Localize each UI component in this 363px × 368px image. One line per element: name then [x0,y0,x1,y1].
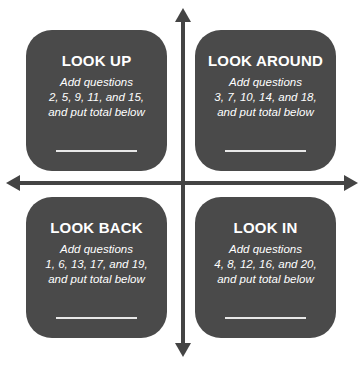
instruction-line: and put total below [195,272,336,287]
quadrant-instructions: Add questions 2, 5, 9, 11, and 15, and p… [26,75,167,120]
instruction-line: Add questions [195,75,336,90]
instruction-line: 3, 7, 10, 14, and 18, [195,90,336,105]
quadrant-title: LOOK AROUND [195,52,336,69]
quadrant-look-up: LOOK UP Add questions 2, 5, 9, 11, and 1… [26,30,167,171]
instruction-line: Add questions [26,242,167,257]
quadrant-title: LOOK UP [26,52,167,69]
quadrant-instructions: Add questions 4, 8, 12, 16, and 20, and … [195,242,336,287]
total-blank-line [56,317,137,319]
quadrant-instructions: Add questions 1, 6, 13, 17, and 19, and … [26,242,167,287]
instruction-line: 1, 6, 13, 17, and 19, [26,257,167,272]
total-blank-line [225,317,306,319]
total-blank-line [56,150,137,152]
quadrant-look-back: LOOK BACK Add questions 1, 6, 13, 17, an… [26,197,167,338]
horizontal-axis [16,181,348,185]
quadrant-title: LOOK BACK [26,219,167,236]
arrow-up-icon [175,8,191,22]
instruction-line: and put total below [26,272,167,287]
instruction-line: 2, 5, 9, 11, and 15, [26,90,167,105]
arrow-right-icon [344,175,358,191]
instruction-line: Add questions [26,75,167,90]
instruction-line: and put total below [195,105,336,120]
quadrant-look-around: LOOK AROUND Add questions 3, 7, 10, 14, … [195,30,336,171]
instruction-line: and put total below [26,105,167,120]
quadrant-instructions: Add questions 3, 7, 10, 14, and 18, and … [195,75,336,120]
arrow-down-icon [175,343,191,357]
total-blank-line [225,150,306,152]
quadrant-title: LOOK IN [195,219,336,236]
arrow-left-icon [6,175,20,191]
instruction-line: Add questions [195,242,336,257]
instruction-line: 4, 8, 12, 16, and 20, [195,257,336,272]
quadrant-look-in: LOOK IN Add questions 4, 8, 12, 16, and … [195,197,336,338]
